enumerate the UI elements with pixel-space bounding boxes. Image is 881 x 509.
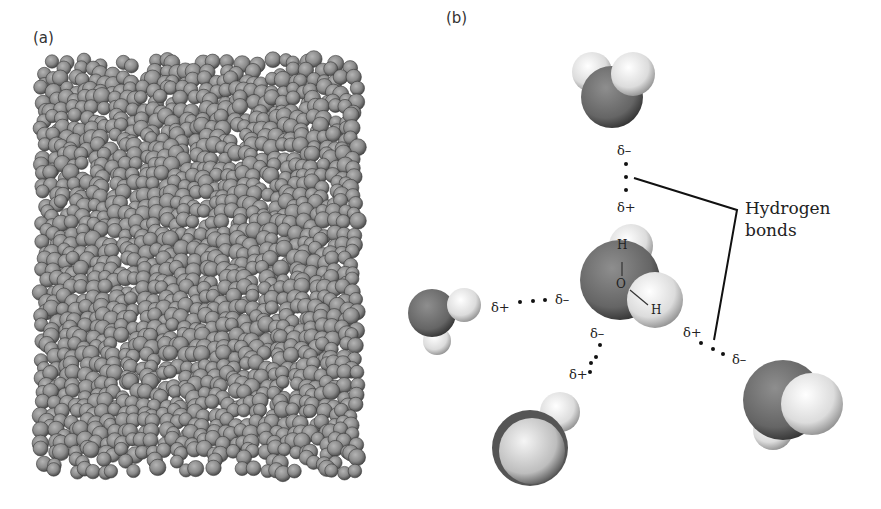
hydrogen-bonds-annotation: Hydrogen bonds: [745, 197, 831, 241]
central-water-molecule: [580, 224, 683, 328]
charge-right-acceptor: δ–: [732, 352, 746, 367]
charge-bottom-donor: δ+: [569, 367, 588, 382]
central-h-top-label: H: [617, 238, 627, 252]
charge-right-donor: δ+: [683, 325, 702, 340]
annotation-line-1: Hydrogen: [745, 197, 831, 219]
water-simulation-box: [0, 0, 881, 509]
central-h-right-label: H: [651, 303, 661, 317]
central-o-label: O: [616, 277, 626, 291]
charge-top-acceptor: δ–: [617, 143, 631, 158]
top-water-molecule: [572, 52, 655, 128]
charge-top-donor: δ+: [617, 200, 636, 215]
bottom-water-molecule: [492, 392, 580, 486]
annotation-line-2: bonds: [745, 219, 831, 241]
charge-left-acceptor: δ–: [555, 292, 569, 307]
charge-bottom-acceptor: δ–: [590, 326, 604, 341]
charge-left-donor: δ+: [491, 300, 510, 315]
right-water-molecule: [743, 360, 843, 450]
left-water-molecule: [408, 288, 481, 355]
